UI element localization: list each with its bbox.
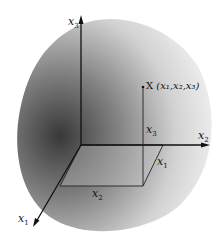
x1-component-label: x1: [157, 156, 168, 170]
x3-component-label: x3: [146, 124, 157, 138]
coordinate-diagram: x3 x2 x1 X (x₁,x₂,x₃) x3 x1 x2: [0, 0, 219, 237]
x1-arrowhead: [33, 218, 40, 227]
point-label: X (x₁,x₂,x₃): [146, 81, 199, 91]
shaded-region: [17, 19, 212, 231]
x2-axis-label: x2: [198, 130, 209, 144]
x1-axis-label: x1: [18, 213, 29, 227]
point-x: [142, 86, 145, 89]
x2-component-label: x2: [92, 188, 103, 202]
diagram-canvas: [0, 0, 219, 237]
x3-arrowhead: [79, 15, 84, 24]
x3-axis-label: x3: [68, 16, 79, 30]
